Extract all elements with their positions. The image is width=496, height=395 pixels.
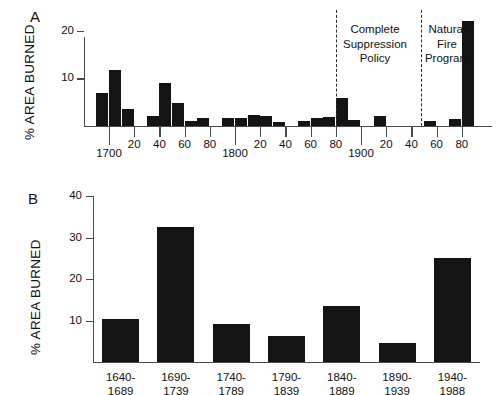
- panel-a-x-tick-label: 60: [425, 138, 449, 150]
- panel-b-x-tick-label-line: 1940-: [425, 370, 480, 384]
- panel-b-x-tick-label-line: 1939: [369, 384, 424, 395]
- panel-b-x-tick-label-line: 1740-: [204, 370, 259, 384]
- panel-a-x-tick-label: 60: [299, 138, 323, 150]
- panel-a-bar: [449, 119, 461, 126]
- panel-b-y-tick-label: 30: [53, 231, 82, 243]
- panel-b-y-tick-label: 10: [53, 314, 82, 326]
- panel-a-x-tick: [386, 127, 387, 137]
- panel-b-x-tick-label: 1690-1739: [148, 370, 203, 395]
- panel-a-bar: [424, 121, 436, 126]
- panel-a-x-tick: [109, 127, 110, 145]
- panel-a-x-tick-label: 40: [147, 138, 171, 150]
- panel-b-bar: [157, 227, 194, 362]
- panel-a-x-tick: [260, 127, 261, 137]
- panel-b-y-tick-label: 40: [53, 189, 82, 201]
- panel-a-x-tick: [336, 127, 337, 137]
- panel-a-bar: [374, 116, 386, 127]
- panel-a-bar: [147, 116, 159, 126]
- panel-a-y-tick-label: 10: [48, 71, 74, 83]
- panel-a-x-tick: [210, 127, 211, 137]
- panel-b-bar: [102, 319, 139, 362]
- panel-a-bar: [222, 118, 234, 126]
- panel-b-y-tick: [86, 279, 93, 280]
- panel-a-x-tick-label: 80: [450, 138, 474, 150]
- panel-b-y-axis: [93, 196, 94, 363]
- panel-a-x-tick-label: 20: [374, 138, 398, 150]
- panel-b-x-tick-label-line: 1690-: [148, 370, 203, 384]
- panel-a-y-tick: [77, 78, 84, 79]
- panel-a-x-tick: [159, 127, 160, 137]
- panel-b-y-tick: [86, 238, 93, 239]
- figure-root: A% AREA BURNED10201700204060801800204060…: [0, 0, 496, 395]
- panel-a-bar: [260, 116, 272, 127]
- panel-b-bar: [323, 306, 360, 362]
- panel-a-x-tick: [185, 127, 186, 137]
- panel-b-x-tick-label-line: 1889: [314, 384, 369, 395]
- panel-a-bar: [235, 118, 247, 126]
- panel-b-y-tick-label: 20: [53, 272, 82, 284]
- panel-b-bar: [213, 324, 250, 362]
- panel-a-bar: [122, 109, 134, 126]
- panel-a-y-tick: [77, 31, 84, 32]
- panel-a-annotation-line: Fire: [405, 37, 489, 52]
- panel-a-annotation: NaturalFireProgram: [405, 22, 489, 66]
- panel-b-letter: B: [28, 190, 39, 207]
- panel-b-x-tick-label: 1740-1789: [204, 370, 259, 395]
- panel-a-x-tick-label: 20: [122, 138, 146, 150]
- panel-b-ylabel: % AREA BURNED: [28, 239, 43, 355]
- panel-a-y-axis: [84, 37, 85, 127]
- panel-a-x-tick-label: 20: [248, 138, 272, 150]
- panel-b-x-tick-label-line: 1640-: [93, 370, 148, 384]
- panel-b-x-tick-label-line: 1790-: [259, 370, 314, 384]
- panel-a-ylabel: % AREA BURNED: [22, 24, 37, 140]
- panel-a-x-tick: [235, 127, 236, 145]
- panel-b-bar: [268, 336, 305, 362]
- panel-a-bar: [159, 83, 171, 126]
- panel-a-bar: [273, 122, 285, 126]
- panel-b-x-tick-label: 1840-1889: [314, 370, 369, 395]
- panel-b-x-tick-label-line: 1789: [204, 384, 259, 395]
- panel-a-bar: [348, 120, 360, 126]
- panel-a-bar: [298, 121, 310, 126]
- panel-a-annotation-line: Natural: [405, 22, 489, 37]
- panel-b-bar: [379, 343, 416, 362]
- panel-b-x-axis: [93, 362, 480, 363]
- panel-b-x-tick-label-line: 1689: [93, 384, 148, 395]
- panel-a-bar: [185, 121, 197, 126]
- panel-b-x-tick-label-line: 1840-: [314, 370, 369, 384]
- panel-a-bar: [311, 118, 323, 126]
- panel-a-bar: [96, 93, 108, 126]
- panel-b-x-tick-label: 1640-1689: [93, 370, 148, 395]
- panel-b-x-tick-label: 1890-1939: [369, 370, 424, 395]
- panel-b-bar: [434, 258, 471, 362]
- panel-a-x-axis: [84, 126, 492, 127]
- panel-a-y-tick-label: 20: [48, 24, 74, 36]
- panel-b-x-tick-label-line: 1839: [259, 384, 314, 395]
- panel-b-y-tick: [86, 196, 93, 197]
- panel-b-x-tick-label-line: 1739: [148, 384, 203, 395]
- panel-b-x-tick-label: 1940-1988: [425, 370, 480, 395]
- panel-a-x-tick: [285, 127, 286, 137]
- panel-a-annotation-line: Program: [405, 51, 489, 66]
- panel-a-x-tick-label: 60: [173, 138, 197, 150]
- panel-a-x-tick: [361, 127, 362, 145]
- panel-a-bar: [323, 117, 335, 126]
- panel-a-x-tick: [134, 127, 135, 137]
- panel-a-letter: A: [30, 8, 41, 25]
- panel-a-x-tick-label: 40: [273, 138, 297, 150]
- panel-a-bar: [336, 98, 348, 126]
- panel-a-x-tick: [462, 127, 463, 137]
- panel-a-x-tick: [411, 127, 412, 137]
- panel-a-x-tick: [437, 127, 438, 137]
- panel-b-x-tick-label: 1790-1839: [259, 370, 314, 395]
- panel-a-bar: [109, 70, 121, 126]
- panel-a-bar: [172, 103, 184, 126]
- panel-a-bar: [197, 118, 209, 126]
- panel-a-x-tick-label: 40: [399, 138, 423, 150]
- panel-b-y-tick: [86, 321, 93, 322]
- panel-a-bar: [248, 115, 260, 126]
- panel-a-x-tick: [311, 127, 312, 137]
- panel-b-x-tick-label-line: 1890-: [369, 370, 424, 384]
- panel-b-x-tick-label-line: 1988: [425, 384, 480, 395]
